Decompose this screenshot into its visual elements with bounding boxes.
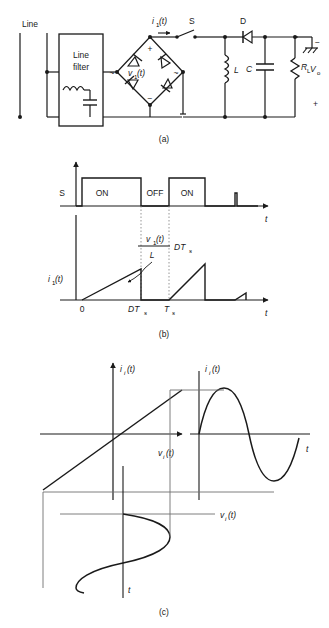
inductor-coil-icon xyxy=(225,55,229,83)
panel-b-waveforms: t S ON OFF ON v 1 (t) L DT s t i 1 (t) xyxy=(48,162,268,339)
svg-text:V: V xyxy=(310,64,317,74)
switch-label: S xyxy=(189,16,195,26)
bridge-diode-top-left xyxy=(128,54,142,66)
svg-text:v: v xyxy=(146,234,151,244)
output-minus-sign: − xyxy=(315,37,320,47)
panel-c-caption: (c) xyxy=(159,607,169,617)
current-time-y-axis-label: i i (t) xyxy=(205,364,220,376)
svg-text:(t): (t) xyxy=(159,16,167,26)
junction-dot xyxy=(18,115,22,119)
panel-a-caption: (a) xyxy=(159,134,170,144)
panel-a-circuit: Line Line filter xyxy=(18,16,321,144)
svg-text:i: i xyxy=(225,516,227,522)
diode-d xyxy=(243,31,252,43)
svg-text:(t): (t) xyxy=(228,510,236,520)
svg-text:i: i xyxy=(120,364,123,374)
current-time-axis-label: t xyxy=(265,308,268,318)
capacitor-label: C xyxy=(246,64,253,74)
svg-text:o: o xyxy=(317,70,321,76)
slope-annotation: v 1 (t) L DT s xyxy=(138,234,192,260)
svg-text:(t): (t) xyxy=(127,364,135,374)
line-filter-label-1: Line xyxy=(73,50,89,60)
svg-text:i: i xyxy=(152,16,155,26)
svg-text:s: s xyxy=(172,310,175,316)
transfer-x-axis-label: v i (t) xyxy=(158,448,174,460)
panel-c-construction: i i (t) v i (t) i i (t) t v xyxy=(40,363,310,617)
junction-dot xyxy=(223,115,227,119)
svg-text:(t): (t) xyxy=(137,68,145,78)
bridge-plus-sign: + xyxy=(148,44,153,54)
svg-text:i: i xyxy=(205,364,208,374)
switch-blade xyxy=(177,30,194,37)
output-plus-sign: + xyxy=(313,99,318,109)
filter-inductor-icon xyxy=(63,87,84,91)
svg-text:i: i xyxy=(124,370,126,376)
ac-terminal-right-icon: ~ xyxy=(174,68,179,78)
svg-text:i: i xyxy=(209,370,211,376)
junction-dot xyxy=(45,70,49,74)
switch-state-on-1: ON xyxy=(96,188,109,198)
svg-text:DT: DT xyxy=(128,304,140,314)
svg-text:i: i xyxy=(48,274,51,284)
diode-label: D xyxy=(240,16,246,26)
svg-text:s: s xyxy=(189,248,192,254)
bridge-arm-top-right xyxy=(150,37,183,72)
annotation-pointer xyxy=(128,262,152,282)
bridge-minus-sign: − xyxy=(148,93,153,103)
panel-b-caption: (b) xyxy=(159,329,170,339)
svg-text:(t): (t) xyxy=(212,364,220,374)
svg-text:(t): (t) xyxy=(55,274,63,284)
svg-text:v: v xyxy=(128,68,133,78)
inductor-label: L xyxy=(234,65,239,75)
current-sawtooth-waveform xyxy=(82,264,246,300)
ac-terminal-left-icon: ~ xyxy=(110,68,115,78)
svg-text:i: i xyxy=(163,454,165,460)
svg-text:s: s xyxy=(144,310,147,316)
line-label: Line xyxy=(22,19,38,29)
voltage-time-axis-label: t xyxy=(128,585,131,595)
load-resistor-icon xyxy=(291,58,299,79)
svg-text:L: L xyxy=(150,250,155,260)
switch-state-on-2: ON xyxy=(181,188,194,198)
svg-text:DT: DT xyxy=(174,242,186,252)
current-signal-label: i 1 (t) xyxy=(48,274,63,286)
time-origin-label: 0 xyxy=(80,304,85,314)
switch-time-axis-label: t xyxy=(265,214,268,224)
line-filter-box xyxy=(59,34,103,126)
switch-state-off: OFF xyxy=(147,188,164,198)
junction-dot xyxy=(263,115,267,119)
bridge-diode-bottom-right xyxy=(161,79,172,92)
time-ts-label: T s xyxy=(164,304,175,316)
output-voltage-label: V o xyxy=(310,64,321,76)
figure-root: Line Line filter xyxy=(0,0,329,628)
current-time-axis-label-c: t xyxy=(306,444,309,454)
input-current-label: i 1 (t) xyxy=(152,16,167,28)
switch-signal-label: S xyxy=(59,188,65,198)
time-dts-label: DT s xyxy=(128,304,147,316)
svg-text:(t): (t) xyxy=(156,234,164,244)
voltage-axis-label: v i (t) xyxy=(220,510,236,522)
line-filter-label-2: filter xyxy=(73,62,89,72)
transfer-y-axis-label: i i (t) xyxy=(120,364,135,376)
svg-text:T: T xyxy=(164,304,170,314)
